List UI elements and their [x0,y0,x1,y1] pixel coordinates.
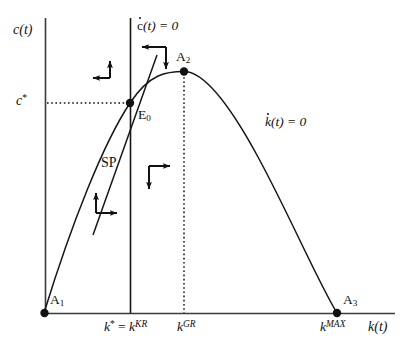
phase-diagram-figure: c(t) k(t) c* c(t) = 0 k(t) = 0 SP A1 A2 … [0,0,418,357]
cdot-zero-locus-label: c(t) = 0 [137,19,178,33]
equilibrium-point-label: E0 [138,108,151,123]
k-star-kr-tick-label: k* = kKR [104,320,147,334]
motion-arrows-lower-right [149,166,170,189]
saddle-path-line [93,55,157,235]
point-e0-marker [126,99,134,107]
point-a2-marker [180,67,188,75]
c-star-axis-label: c* [16,93,27,108]
k-kr-superscript: KR [135,319,147,329]
point-a3-label: A3 [343,293,357,308]
kdot-zero-locus-label: k(t) = 0 [265,115,306,129]
point-a2-label: A2 [176,50,190,65]
point-a1-subscript: 1 [60,298,65,308]
y-axis-label: c(t) [13,23,32,37]
x-axis-label: k(t) [368,320,387,334]
point-a3-subscript: 3 [353,298,358,308]
point-a3-marker [333,309,341,317]
point-a1-label: A1 [50,293,64,308]
point-a2-subscript: 2 [186,55,191,65]
equilibrium-subscript: 0 [146,113,151,123]
k-max-superscript: MAX [326,319,345,329]
kdot-zero-locus-curve [44,72,337,314]
saddle-path-label: SP [101,156,117,170]
c-star-superscript: * [22,92,27,103]
point-a1-marker [40,309,48,317]
motion-arrows-upper-left [93,61,110,78]
c-dot-accent: c [137,19,143,33]
k-gr-superscript: GR [183,319,196,329]
k-max-tick-label: kMAX [320,320,345,334]
k-dot-accent: k [265,115,271,129]
k-gr-tick-label: kGR [177,320,196,334]
motion-arrows-upper-right [142,47,166,69]
